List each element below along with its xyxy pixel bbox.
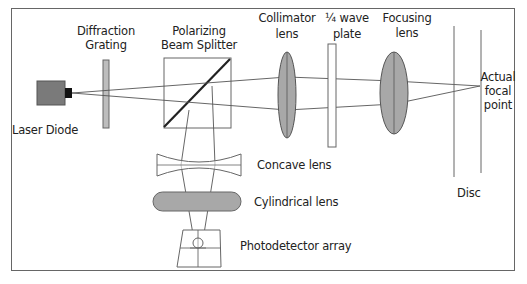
cylindrical-lens [153, 192, 241, 211]
label-laser-diode: Laser Diode [12, 124, 78, 137]
label-collimator-1: Collimator [258, 12, 315, 25]
label-beam-splitter-2: Beam Splitter [161, 39, 237, 52]
main-beams [72, 77, 480, 110]
optical-diagram: Laser Diode Diffraction Grating Polarizi… [0, 0, 527, 284]
beam-splitter-diagonal [164, 59, 230, 127]
label-diffraction-grating-1: Diffraction [77, 25, 135, 38]
photodetector-array [177, 230, 221, 267]
label-beam-splitter-1: Polarizing [172, 25, 226, 38]
label-wave-plate-1: ¼ wave [325, 12, 369, 25]
laser-emitter [65, 88, 72, 98]
label-disc: Disc [457, 187, 481, 200]
label-focusing-1: Focusing [382, 12, 431, 25]
label-focal-3: point [484, 99, 512, 112]
label-focusing-2: lens [396, 27, 419, 40]
label-wave-plate-2: plate [333, 28, 361, 41]
label-cylindrical-lens: Cylindrical lens [254, 196, 338, 209]
label-focal-2: focal [485, 85, 512, 98]
quarter-wave-plate [328, 44, 336, 147]
label-diffraction-grating-2: Grating [85, 39, 127, 52]
diffraction-grating [103, 60, 109, 128]
laser-diode-body [37, 81, 65, 105]
label-collimator-2: lens [276, 28, 299, 41]
label-focal-1: Actual [481, 71, 516, 84]
label-photodetector: Photodetector array [240, 240, 351, 253]
label-concave-lens: Concave lens [257, 159, 331, 172]
detector-spot [193, 238, 203, 248]
